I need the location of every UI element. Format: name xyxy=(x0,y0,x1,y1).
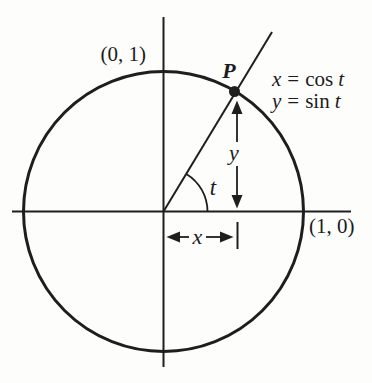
eq1-lhs: x xyxy=(271,67,282,91)
equation-cos: x=cost xyxy=(271,67,345,91)
right-intercept-label: (1, 0) xyxy=(309,214,355,238)
unit-circle-figure: (0, 1) P x=cost y=sint (1, 0) t y x xyxy=(0,0,372,383)
eq1-equals: = xyxy=(287,67,299,91)
unit-circle-canvas: (0, 1) P x=cost y=sint (1, 0) t y x xyxy=(0,0,372,383)
eq2-lhs: y xyxy=(270,89,282,113)
equation-sin: y=sint xyxy=(270,89,342,113)
angle-t-label: t xyxy=(210,175,217,200)
arrowhead-right-icon xyxy=(220,232,234,243)
eq2-function: sin xyxy=(305,89,330,113)
top-intercept-label: (0, 1) xyxy=(101,42,147,66)
arrowhead-up-icon xyxy=(232,101,243,115)
angle-arc xyxy=(186,174,207,212)
eq2-argument: t xyxy=(335,89,342,113)
arrowhead-left-icon xyxy=(167,232,181,243)
y-leg-label: y xyxy=(227,140,239,165)
point-p-label: P xyxy=(221,58,236,83)
arrowhead-down-icon xyxy=(232,195,243,209)
eq2-equals: = xyxy=(287,89,299,113)
x-leg-label: x xyxy=(192,224,203,249)
point-p-dot xyxy=(229,86,240,97)
eq1-function: cos xyxy=(305,67,333,91)
eq1-argument: t xyxy=(338,67,345,91)
terminal-ray xyxy=(164,32,273,212)
